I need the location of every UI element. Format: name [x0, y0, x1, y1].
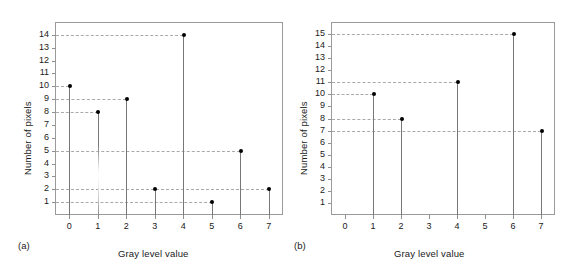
panel-b-x-tick-label: 2 — [389, 221, 413, 231]
panel-b-y-tick-mark — [328, 155, 331, 156]
panel-a-y-tick-mark — [52, 125, 55, 126]
panel-a-y-tick-mark — [52, 35, 55, 36]
panel-a-x-tick-label: 7 — [257, 221, 281, 231]
panel-a-gridline — [56, 99, 126, 100]
panel-a-stem — [269, 189, 270, 215]
panel-a-y-tick-mark — [52, 73, 55, 74]
panel-a-stem — [126, 99, 127, 215]
panel-b-y-tick-label: 8 — [301, 113, 325, 123]
panel-a-x-tick-label: 4 — [171, 221, 195, 231]
panel-a-y-tick-mark — [52, 202, 55, 203]
panel-a-y-tick-label: 9 — [25, 93, 49, 103]
panel-a-x-tick-mark — [98, 215, 99, 219]
panel-b-y-tick-mark — [328, 119, 331, 120]
panel-b-y-tick-label: 12 — [301, 64, 325, 74]
histogram-figure: Number of pixels Gray level value (a) 12… — [0, 0, 565, 267]
panel-b-x-tick-mark — [373, 215, 374, 219]
panel-b-x-tick-label: 6 — [501, 221, 525, 231]
panel-b-y-tick-label: 3 — [301, 173, 325, 183]
panel-b-x-tick-label: 0 — [333, 221, 357, 231]
panel-b-x-tick-label: 4 — [445, 221, 469, 231]
panel-b-stem — [457, 82, 458, 215]
panel-b-x-tick-mark — [401, 215, 402, 219]
panel-b-y-tick-label: 14 — [301, 40, 325, 50]
panel-b-y-tick-mark — [328, 70, 331, 71]
panel-b-x-tick-mark — [485, 215, 486, 219]
panel-b-y-tick-label: 15 — [301, 28, 325, 38]
panel-a-x-tick-label: 6 — [228, 221, 252, 231]
panel-b-y-tick-mark — [328, 58, 331, 59]
panel-a-y-tick-label: 12 — [25, 55, 49, 65]
panel-b-gridline — [332, 82, 457, 83]
panel-a-x-tick-mark — [269, 215, 270, 219]
panel-b-y-tick-mark — [328, 143, 331, 144]
panel-b-x-tick-mark — [345, 215, 346, 219]
panel-b: Number of pixels Gray level value (b) 12… — [282, 0, 565, 267]
panel-b-y-tick-label: 1 — [301, 197, 325, 207]
panel-a-gridline — [56, 202, 212, 203]
panel-b-y-tick-mark — [328, 191, 331, 192]
panel-b-data-point — [372, 92, 376, 96]
panel-a-gridline — [56, 35, 183, 36]
panel-a-gridline — [56, 189, 269, 190]
panel-a-y-tick-mark — [52, 138, 55, 139]
panel-a-x-tick-label: 1 — [86, 221, 110, 231]
panel-a-data-point — [239, 149, 243, 153]
panel-b-y-tick-mark — [328, 34, 331, 35]
panel-a-y-tick-label: 8 — [25, 106, 49, 116]
panel-a-y-tick-label: 4 — [25, 158, 49, 168]
panel-a-x-tick-label: 5 — [200, 221, 224, 231]
panel-b-x-tick-label: 1 — [361, 221, 385, 231]
panel-a-y-tick-mark — [52, 151, 55, 152]
panel-a-x-tick-mark — [69, 215, 70, 219]
panel-b-stem — [401, 119, 402, 216]
panel-b-y-tick-mark — [328, 131, 331, 132]
panel-a-gridline — [56, 112, 98, 113]
panel-b-data-point — [456, 80, 460, 84]
panel-a-plot-area — [55, 22, 283, 215]
panel-a-stem — [98, 112, 99, 215]
panel-a-x-axis-title: Gray level value — [118, 248, 189, 259]
panel-b-y-tick-label: 9 — [301, 100, 325, 110]
panel-a-y-tick-label: 2 — [25, 183, 49, 193]
panel-b-gridline — [332, 94, 373, 95]
panel-b-y-tick-mark — [328, 82, 331, 83]
panel-a-y-tick-label: 5 — [25, 145, 49, 155]
panel-a-y-tick-mark — [52, 176, 55, 177]
panel-a-y-tick-label: 10 — [25, 80, 49, 90]
panel-a-data-point — [125, 97, 129, 101]
panel-b-stem — [541, 131, 542, 215]
panel-b-y-tick-mark — [328, 203, 331, 204]
panel-b-x-tick-mark — [541, 215, 542, 219]
panel-b-data-point — [400, 117, 404, 121]
panel-b-x-tick-mark — [429, 215, 430, 219]
panel-a-stem — [212, 202, 213, 215]
panel-a-y-tick-label: 13 — [25, 42, 49, 52]
panel-a-y-tick-label: 7 — [25, 119, 49, 129]
panel-a-y-tick-mark — [52, 112, 55, 113]
panel-a-caption: (a) — [18, 240, 30, 251]
panel-a-stem — [240, 151, 241, 215]
panel-b-y-tick-label: 5 — [301, 149, 325, 159]
panel-b-stem — [513, 34, 514, 215]
panel-a-stem — [183, 35, 184, 215]
panel-a-y-tick-label: 6 — [25, 132, 49, 142]
panel-a-y-tick-label: 3 — [25, 170, 49, 180]
panel-b-y-tick-label: 11 — [301, 76, 325, 86]
panel-a-y-tick-mark — [52, 99, 55, 100]
panel-a-x-tick-mark — [183, 215, 184, 219]
panel-a-x-tick-mark — [240, 215, 241, 219]
panel-a-x-tick-label: 0 — [57, 221, 81, 231]
panel-b-stem — [373, 94, 374, 215]
panel-b-x-tick-label: 7 — [529, 221, 553, 231]
panel-a-x-tick-mark — [126, 215, 127, 219]
panel-b-y-tick-label: 6 — [301, 137, 325, 147]
panel-a-x-tick-label: 3 — [143, 221, 167, 231]
panel-b-y-tick-mark — [328, 106, 331, 107]
panel-b-y-tick-label: 10 — [301, 88, 325, 98]
panel-a-y-tick-label: 1 — [25, 196, 49, 206]
panel-b-x-axis-title: Gray level value — [394, 248, 465, 259]
panel-a-stem — [155, 189, 156, 215]
panel-b-y-tick-label: 13 — [301, 52, 325, 62]
panel-a-x-tick-mark — [212, 215, 213, 219]
